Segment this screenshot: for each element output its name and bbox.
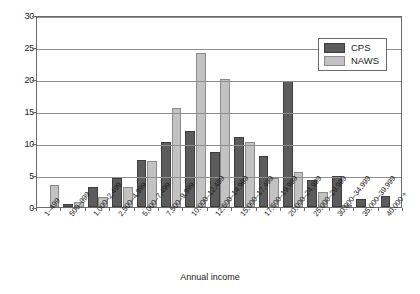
- bar-naws: [220, 79, 230, 207]
- x-tick-mark: [378, 208, 379, 211]
- y-tick-mark: [32, 112, 36, 113]
- y-tick-mark: [32, 80, 36, 81]
- y-tick-mark: [32, 16, 36, 17]
- gridline: [37, 81, 401, 82]
- x-tick-mark: [329, 208, 330, 211]
- gridline: [37, 113, 401, 114]
- bar-chart: 051015202530 CPS NAWS 1–499500–9991,000–…: [0, 0, 420, 294]
- x-axis-labels: 1–499500–9991,000–2,4992,500–4,9995,000–…: [36, 208, 402, 270]
- y-tick-label: 15: [6, 108, 34, 117]
- legend-item-cps: CPS: [324, 43, 379, 53]
- y-tick-label: 10: [6, 140, 34, 149]
- x-tick-mark: [207, 208, 208, 211]
- x-tick-mark: [280, 208, 281, 211]
- x-tick-mark: [402, 208, 403, 211]
- y-tick-label: 5: [6, 172, 34, 181]
- legend-label-naws: NAWS: [351, 56, 379, 66]
- y-tick-label: 0: [6, 204, 34, 213]
- x-tick-mark: [85, 208, 86, 211]
- gridline: [37, 145, 401, 146]
- y-tick-label: 20: [6, 76, 34, 85]
- gridline: [37, 17, 401, 18]
- x-tick-mark: [134, 208, 135, 211]
- x-tick-mark: [256, 208, 257, 211]
- x-tick-mark: [60, 208, 61, 211]
- x-tick-mark: [304, 208, 305, 211]
- x-tick-mark: [36, 208, 37, 211]
- legend-swatch-naws: [324, 56, 345, 66]
- y-tick-mark: [32, 144, 36, 145]
- x-tick-mark: [109, 208, 110, 211]
- x-axis-title: Annual income: [0, 272, 420, 282]
- chart-legend: CPS NAWS: [318, 38, 387, 71]
- x-tick-mark: [353, 208, 354, 211]
- x-tick-mark: [158, 208, 159, 211]
- y-tick-label: 25: [6, 44, 34, 53]
- x-tick-mark: [231, 208, 232, 211]
- legend-item-naws: NAWS: [324, 56, 379, 66]
- x-tick-mark: [182, 208, 183, 211]
- legend-label-cps: CPS: [351, 43, 371, 53]
- y-tick-mark: [32, 48, 36, 49]
- legend-swatch-cps: [324, 43, 345, 53]
- y-tick-label: 30: [6, 12, 34, 21]
- y-tick-mark: [32, 176, 36, 177]
- bar-naws: [196, 53, 206, 207]
